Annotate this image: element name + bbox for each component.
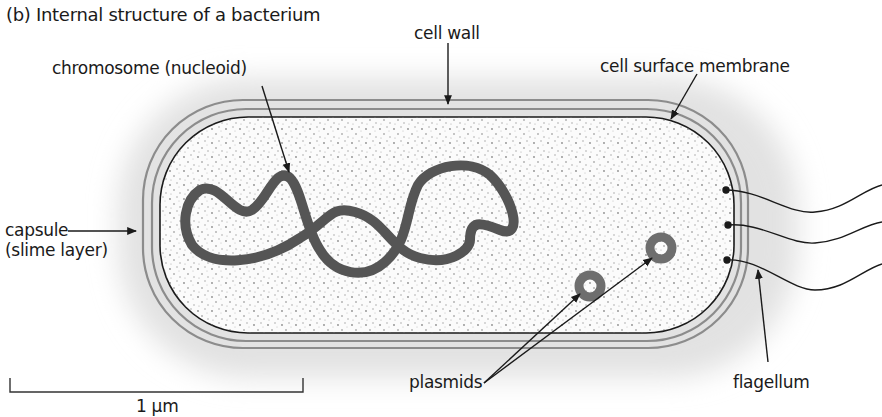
label-chromosome: chromosome (nucleoid) bbox=[52, 58, 247, 78]
label-capsule-slime-layer: (slime layer) bbox=[5, 240, 108, 260]
label-plasmids: plasmids bbox=[409, 372, 482, 392]
scale-bar bbox=[10, 378, 303, 392]
label-capsule: capsule bbox=[5, 220, 68, 240]
figure-title: (b) Internal structure of a bacterium bbox=[6, 4, 320, 26]
label-cell-wall: cell wall bbox=[414, 23, 480, 43]
scale-bar-label: 1 µm bbox=[136, 396, 178, 416]
label-cell-surface-membrane: cell surface membrane bbox=[600, 56, 790, 76]
cell-surface-membrane bbox=[160, 117, 734, 333]
label-flagellum: flagellum bbox=[733, 372, 809, 392]
